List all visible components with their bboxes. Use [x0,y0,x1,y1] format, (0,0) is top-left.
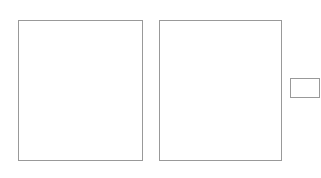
doubling-cube-box[interactable] [290,78,320,98]
right-half-board [160,21,282,161]
left-half-board [19,21,143,161]
backgammon-board [0,0,321,178]
